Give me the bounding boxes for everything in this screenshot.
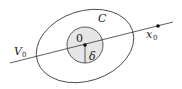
label-origin: 0 (76, 32, 83, 45)
label-V-subscript: 0 (22, 51, 26, 59)
label-x: x (146, 28, 153, 41)
diagram-canvas: C 0 δ V 0 x 0 (0, 0, 182, 89)
label-delta: δ (89, 50, 96, 63)
label-x-subscript: 0 (153, 34, 157, 42)
label-C: C (98, 12, 107, 25)
point-x0 (156, 24, 160, 28)
origin-point (83, 43, 87, 47)
